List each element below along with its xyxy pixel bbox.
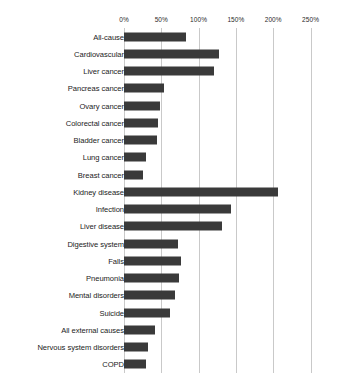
bar-row: Pancreas cancer [0, 80, 339, 97]
x-axis-tick-100: 100% [190, 16, 207, 23]
bar [124, 222, 222, 231]
bar-row: Colorectal cancer [0, 114, 339, 131]
bar [124, 170, 143, 179]
bar [124, 187, 278, 196]
category-label: Liver cancer [83, 67, 124, 76]
bar [124, 308, 170, 317]
bar-row: COPD [0, 356, 339, 373]
category-label: Pancreas cancer [68, 84, 124, 93]
category-label: Suicide [99, 308, 124, 317]
bar [124, 239, 178, 248]
category-label: All-cause [93, 32, 124, 41]
bar [124, 101, 160, 110]
category-label: Ovary cancer [79, 101, 124, 110]
bar-row: Mental disorders [0, 287, 339, 304]
bar-row: Cardiovascular [0, 45, 339, 62]
category-label: Falls [108, 256, 124, 265]
bar-row: Breast cancer [0, 166, 339, 183]
category-label: Infection [96, 205, 124, 214]
category-label: Colorectal cancer [66, 118, 124, 127]
bar-chart: 0%50%100%150%200%250% All-causeCardiovas… [0, 0, 339, 382]
bar [124, 274, 179, 283]
bar-row: Ovary cancer [0, 97, 339, 114]
bar-row: Kidney disease [0, 183, 339, 200]
bar-row: Infection [0, 201, 339, 218]
bar [124, 325, 155, 334]
bar [124, 360, 146, 369]
category-label: Mental disorders [69, 291, 124, 300]
x-axis-tick-50: 50% [155, 16, 168, 23]
bar [124, 136, 157, 145]
bar-row: Lung cancer [0, 149, 339, 166]
category-label: Pneumonia [86, 274, 124, 283]
bar-row: Digestive system [0, 235, 339, 252]
category-label: Kidney disease [73, 187, 124, 196]
category-label: COPD [102, 360, 124, 369]
bar [124, 84, 164, 93]
bar-rows: All-causeCardiovascularLiver cancerPancr… [0, 28, 339, 373]
bar-row: Nervous system disorders [0, 339, 339, 356]
x-axis-tick-200: 200% [265, 16, 282, 23]
bar-row: Liver cancer [0, 63, 339, 80]
bar [124, 291, 175, 300]
category-label: Digestive system [67, 239, 124, 248]
bar-row: All-cause [0, 28, 339, 45]
bar [124, 67, 214, 76]
x-axis-tick-0: 0% [119, 16, 129, 23]
plot-area: All-causeCardiovascularLiver cancerPancr… [0, 28, 339, 373]
category-label: Breast cancer [78, 170, 124, 179]
bar-row: Suicide [0, 304, 339, 321]
bar-row: Bladder cancer [0, 132, 339, 149]
bar [124, 343, 148, 352]
category-label: Cardiovascular [74, 49, 124, 58]
bar [124, 49, 219, 58]
x-axis-tick-labels: 0%50%100%150%200%250% [0, 16, 339, 26]
category-label: Lung cancer [83, 153, 124, 162]
bar [124, 205, 231, 214]
category-label: Liver disease [80, 222, 124, 231]
bar [124, 32, 186, 41]
bar-row: Liver disease [0, 218, 339, 235]
category-label: Bladder cancer [74, 136, 124, 145]
category-label: All external causes [61, 325, 124, 334]
x-axis-tick-250: 250% [302, 16, 319, 23]
bar-row: Falls [0, 252, 339, 269]
bar [124, 153, 146, 162]
bar-row: All external causes [0, 321, 339, 338]
category-label: Nervous system disorders [37, 343, 124, 352]
bar [124, 118, 158, 127]
chart-title [0, 0, 339, 13]
bar [124, 256, 181, 265]
bar-row: Pneumonia [0, 270, 339, 287]
x-axis-tick-150: 150% [227, 16, 244, 23]
